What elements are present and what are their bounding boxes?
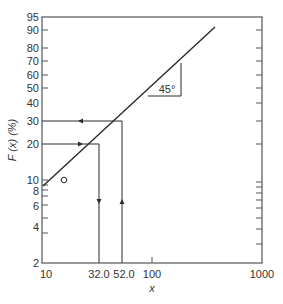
data-point-marker — [61, 177, 67, 183]
x-tick-10: 10 — [40, 268, 52, 280]
probability-plot: 95 90 80 70 60 50 40 30 20 10 8 6 4 2 10… — [0, 0, 283, 304]
right-axis-ticks — [256, 30, 262, 244]
y-tick-30: 30 — [27, 115, 39, 127]
arrow-up-icon — [120, 199, 125, 204]
arrow-right-icon — [78, 142, 83, 147]
reference-path-52 — [42, 121, 122, 263]
y-tick-labels: 95 90 80 70 60 50 40 30 20 10 8 6 4 2 — [27, 11, 39, 269]
left-axis-ticks — [42, 30, 48, 233]
x-tick-52: 52.0 — [113, 268, 134, 280]
y-tick-50: 50 — [27, 82, 39, 94]
y-tick-20: 20 — [27, 138, 39, 150]
y-tick-95: 95 — [27, 11, 39, 23]
x-tick-labels: 10 32.0 52.0 100 1000 — [40, 268, 274, 280]
x-tick-32: 32.0 — [88, 268, 109, 280]
y-tick-8: 8 — [33, 185, 39, 197]
slope-label: 45° — [159, 83, 176, 95]
arrow-left-icon — [78, 119, 83, 124]
y-tick-60: 60 — [27, 69, 39, 81]
y-tick-80: 80 — [27, 42, 39, 54]
y-tick-70: 70 — [27, 55, 39, 67]
y-axis-title: F (x) (%) — [6, 118, 18, 161]
x-tick-1000: 1000 — [250, 268, 274, 280]
fitted-line — [43, 27, 215, 186]
plot-frame — [42, 17, 262, 263]
arrow-down-icon — [97, 199, 102, 204]
x-tick-100-label: 100 — [143, 268, 161, 280]
y-tick-6: 6 — [33, 200, 39, 212]
y-tick-2: 2 — [33, 257, 39, 269]
y-tick-4: 4 — [33, 221, 39, 233]
reference-path-20 — [42, 144, 99, 263]
y-tick-40: 40 — [27, 97, 39, 109]
y-tick-90: 90 — [27, 24, 39, 36]
x-axis-title: x — [148, 282, 155, 294]
